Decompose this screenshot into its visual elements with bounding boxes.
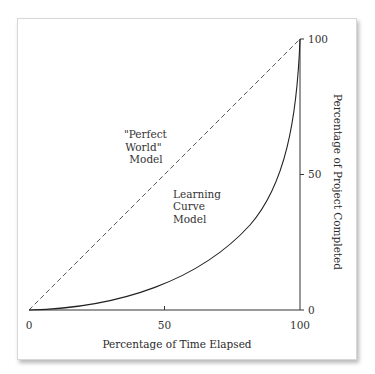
x-tick-100: 100 [290,319,310,331]
perfect-world-label: "Perfect World" Model [124,128,170,165]
y-tick-50: 50 [308,168,321,180]
x-tick-0: 0 [26,319,33,331]
perfect-world-line [29,39,300,310]
learning-curve-label: Learning Curve Model [173,188,224,225]
x-tick-50: 50 [158,319,171,331]
y-tick-0: 0 [308,304,315,316]
chart: 0 50 100 0 50 100 Percentage of Time Ela… [0,0,375,374]
y-tick-100: 100 [308,33,328,45]
y-axis-title: Percentage of Project Completed [332,94,344,270]
x-axis-title: Percentage of Time Elapsed [102,338,251,350]
